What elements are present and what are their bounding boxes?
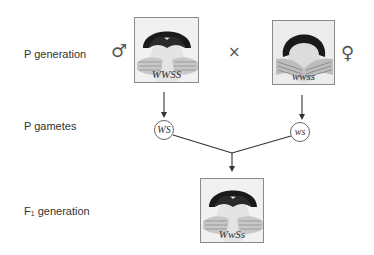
f1-label-f: F bbox=[24, 205, 31, 217]
female-gamete-line bbox=[232, 136, 291, 153]
f1-label-suffix: generation bbox=[35, 205, 90, 217]
row-label-p-gametes: P gametes bbox=[24, 120, 76, 132]
f1-genotype: WwSs bbox=[201, 228, 263, 240]
female-gamete-circle: ws bbox=[290, 122, 310, 142]
female-symbol-icon: ♀ bbox=[341, 44, 354, 62]
male-genotype: WWSS bbox=[135, 68, 198, 80]
male-gamete-line bbox=[173, 135, 232, 153]
female-parent-image: wwss bbox=[272, 20, 335, 85]
male-symbol-icon: ♂ bbox=[111, 42, 127, 60]
cross-symbol-icon: × bbox=[228, 45, 241, 60]
f1-offspring-image: WwSs bbox=[200, 178, 264, 243]
male-gamete-circle: WS bbox=[154, 120, 174, 140]
female-genotype: wwss bbox=[273, 70, 334, 82]
row-label-f1-generation: F1 generation bbox=[24, 205, 90, 217]
row-label-p-generation: P generation bbox=[24, 48, 86, 60]
genetics-cross-diagram: P generation P gametes F1 generation ♂ W… bbox=[0, 0, 374, 255]
male-parent-image: WWSS bbox=[134, 17, 199, 83]
